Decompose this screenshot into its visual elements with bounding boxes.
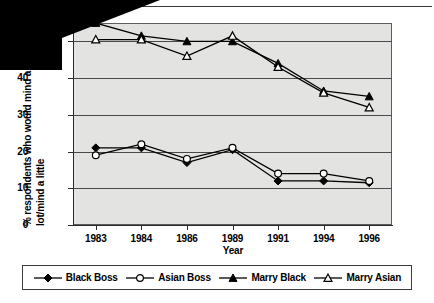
series-layer xyxy=(73,23,392,225)
data-point-marker xyxy=(274,177,282,185)
legend-label: Marry Black xyxy=(251,272,306,283)
x-axis-title: Year xyxy=(73,245,393,256)
legend-label: Marry Asian xyxy=(346,272,401,283)
header-rule xyxy=(120,6,432,7)
x-tick-mark xyxy=(324,225,325,230)
legend-label: Black Boss xyxy=(66,272,118,283)
data-point-marker xyxy=(92,152,99,159)
data-point-marker xyxy=(275,170,282,177)
legend-item-marry-black[interactable]: Marry Black xyxy=(218,272,306,284)
x-tick-mark xyxy=(96,225,97,230)
x-tick-label: 1983 xyxy=(76,233,116,244)
x-tick-label: 1984 xyxy=(121,233,161,244)
legend-item-black-boss[interactable]: Black Boss xyxy=(33,272,118,284)
x-tick-label: 1994 xyxy=(304,233,344,244)
legend-item-asian-boss[interactable]: Asian Boss xyxy=(125,272,210,284)
x-tick-mark xyxy=(369,225,370,230)
chart-legend: Black BossAsian BossMarry BlackMarry Asi… xyxy=(22,265,412,290)
x-tick-label: 1991 xyxy=(258,233,298,244)
x-tick-mark xyxy=(233,225,234,230)
data-point-marker xyxy=(366,178,373,185)
data-point-marker xyxy=(229,144,236,151)
data-point-marker xyxy=(183,52,191,59)
y-axis-title-line2: lot/mind a little xyxy=(35,159,46,226)
data-point-marker xyxy=(320,177,328,185)
legend-marker-filled-diamond-icon xyxy=(33,272,63,284)
legend-marker-open-triangle-icon xyxy=(313,272,343,284)
x-tick-mark xyxy=(278,225,279,230)
chart-page: 01020304050 1983198419861989199119941996… xyxy=(0,0,434,303)
data-point-marker xyxy=(229,32,237,39)
data-point-marker xyxy=(92,144,100,152)
x-tick-mark xyxy=(141,225,142,230)
data-point-marker xyxy=(92,23,100,26)
y-axis-title: % respondents who would mind a lot/mind … xyxy=(20,36,54,226)
legend-marker-filled-triangle-icon xyxy=(218,272,248,284)
legend-marker-open-circle-icon xyxy=(125,272,155,284)
data-point-marker xyxy=(138,141,145,148)
x-tick-mark xyxy=(187,225,188,230)
x-tick-label: 1996 xyxy=(349,233,389,244)
x-tick-label: 1986 xyxy=(167,233,207,244)
legend-item-marry-asian[interactable]: Marry Asian xyxy=(313,272,401,284)
data-point-marker xyxy=(184,155,191,162)
y-axis-title-line1: % respondents who would mind a xyxy=(22,71,33,226)
data-point-marker xyxy=(320,170,327,177)
line-chart: 01020304050 1983198419861989199119941996… xyxy=(0,14,400,240)
x-tick-label: 1989 xyxy=(213,233,253,244)
legend-label: Asian Boss xyxy=(158,272,210,283)
